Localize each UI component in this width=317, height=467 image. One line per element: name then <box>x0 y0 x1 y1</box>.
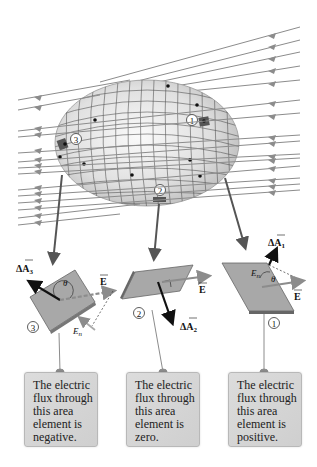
callout-text: zero. <box>135 431 195 444</box>
svg-text:1: 1 <box>272 319 277 329</box>
field-arrowheads-back <box>268 33 276 87</box>
svg-text:θ: θ <box>271 274 276 284</box>
svg-text:2: 2 <box>137 309 142 319</box>
svg-text:E: E <box>100 276 107 287</box>
svg-text:3: 3 <box>31 323 36 333</box>
svg-text:1: 1 <box>190 116 195 126</box>
element-2-magnified: E ΔA2 2 <box>120 265 208 334</box>
svg-text:3: 3 <box>74 135 79 145</box>
callout-zero-flux: The electric flux through this area elem… <box>126 372 200 447</box>
callout-connectors <box>56 310 268 372</box>
svg-text:En: En <box>72 326 83 338</box>
callout-text: positive. <box>237 431 297 444</box>
callout-text: negative. <box>33 431 93 444</box>
element-1-magnified: ΔA1 En θ E 1 <box>222 235 303 329</box>
surface-label-3: 3 <box>71 134 82 145</box>
svg-text:ΔA2: ΔA2 <box>180 321 198 334</box>
callout-positive-flux: The electric flux through this area elem… <box>228 372 302 447</box>
callout-negative-flux: The electric flux through this area elem… <box>24 372 98 447</box>
normal-component-3 <box>80 318 95 330</box>
element-3-magnified: ΔA3 θ E En 3 <box>16 260 113 338</box>
area-vector-1 <box>269 250 276 265</box>
svg-text:ΔA1: ΔA1 <box>268 237 286 250</box>
svg-text:ΔA3: ΔA3 <box>16 263 34 276</box>
svg-text:θ: θ <box>63 278 68 288</box>
surface-label-1: 1 <box>187 115 198 126</box>
svg-text:E: E <box>199 284 206 295</box>
svg-text:E: E <box>294 291 301 302</box>
